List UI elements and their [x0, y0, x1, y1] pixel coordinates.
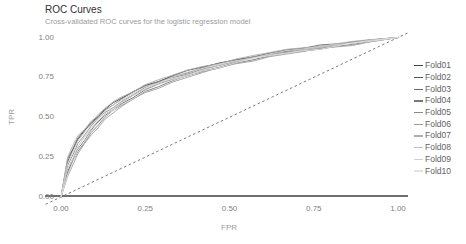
legend-item-fold04: Fold04 [414, 95, 451, 107]
legend-item-label: Fold04 [425, 95, 451, 106]
legend-swatch-line [414, 147, 423, 148]
legend-swatch-line [414, 65, 423, 66]
x-tick-label: 0.00 [46, 204, 76, 214]
legend-swatch-line [414, 170, 423, 171]
legend-item-fold06: Fold06 [414, 118, 451, 130]
legend-item-fold01: Fold01 [414, 60, 451, 72]
legend-swatch-line [414, 89, 423, 90]
legend-swatch-line [414, 100, 423, 101]
x-tick-label: 0.75 [299, 204, 329, 214]
legend-item-label: Fold05 [425, 107, 451, 118]
legend-item-fold10: Fold10 [414, 165, 451, 177]
y-tick-label: 0.75 [20, 72, 54, 82]
x-tick-label: 0.50 [215, 204, 245, 214]
legend-item-label: Fold08 [425, 142, 451, 153]
legend-item-label: Fold06 [425, 119, 451, 130]
x-tick-label: 0.25 [130, 204, 160, 214]
legend-swatch-line [414, 124, 423, 125]
legend-item-label: Fold07 [425, 130, 451, 141]
y-tick-label: 1.00 [20, 33, 54, 43]
legend-item-fold08: Fold08 [414, 142, 451, 154]
legend-item-fold03: Fold03 [414, 83, 451, 95]
legend: Fold01Fold02Fold03Fold04Fold05Fold06Fold… [414, 60, 451, 177]
legend-swatch-line [414, 112, 423, 113]
y-tick-label: 0.50 [20, 112, 54, 122]
x-tick-label: 1.00 [383, 204, 413, 214]
legend-swatch-line [414, 159, 423, 160]
y-tick-label: 0.25 [20, 152, 54, 162]
y-tick-label: 0.00 [20, 192, 54, 202]
legend-item-fold07: Fold07 [414, 130, 451, 142]
legend-item-label: Fold09 [425, 154, 451, 165]
legend-item-fold05: Fold05 [414, 107, 451, 119]
legend-swatch-line [414, 77, 423, 78]
legend-item-fold09: Fold09 [414, 154, 451, 166]
legend-item-label: Fold03 [425, 84, 451, 95]
legend-item-label: Fold02 [425, 72, 451, 83]
legend-item-label: Fold10 [425, 166, 451, 177]
legend-item-label: Fold01 [425, 60, 451, 71]
roc-chart: ROC Curves Cross-validated ROC curves fo… [0, 0, 466, 244]
legend-item-fold02: Fold02 [414, 72, 451, 84]
legend-swatch-line [414, 135, 423, 136]
